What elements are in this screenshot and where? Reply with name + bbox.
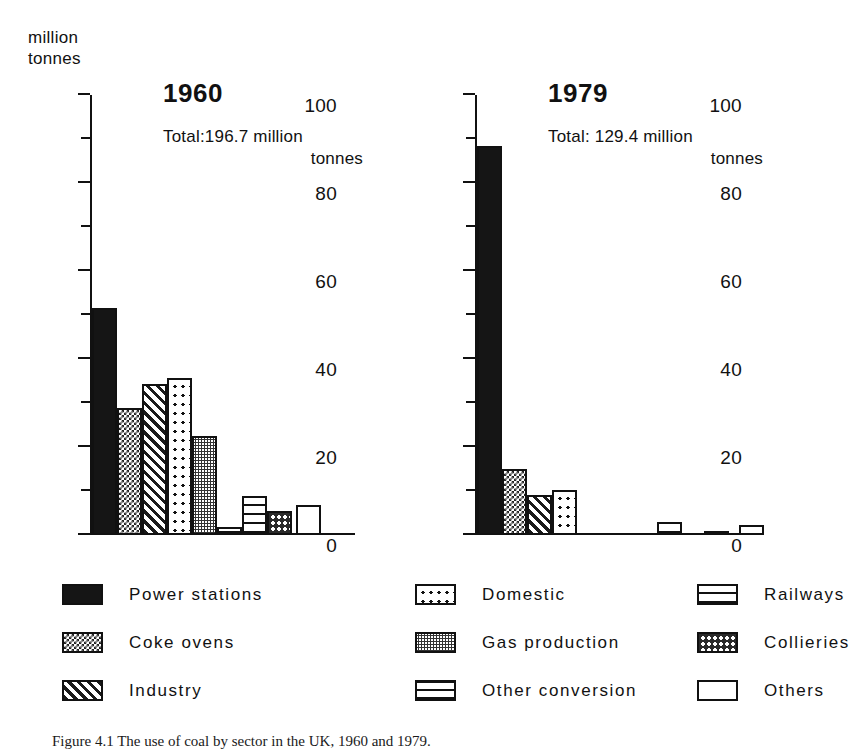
bar-power-stations xyxy=(92,308,117,535)
legend-label: Gas production xyxy=(482,633,620,653)
bar-other-conversion xyxy=(217,527,242,535)
y-tick-major xyxy=(78,357,90,359)
legend-swatch-power-stations xyxy=(62,584,103,605)
figure-caption: Figure 4.1 The use of coal by sector in … xyxy=(52,733,852,750)
y-tick-major xyxy=(463,445,475,447)
bar-domestic xyxy=(552,490,577,535)
legend-swatch-collieries xyxy=(697,632,738,653)
panel-1960: 1960 Total:196.7 million tonnes 02040608… xyxy=(0,0,430,560)
bar-coke-ovens xyxy=(502,469,527,535)
y-tick-minor xyxy=(466,313,475,315)
legend-label: Industry xyxy=(129,681,202,701)
y-tick-major xyxy=(78,181,90,183)
bar-industry xyxy=(142,384,167,535)
bar-power-stations xyxy=(477,146,502,535)
legend-item: Others xyxy=(697,680,825,701)
y-tick-major xyxy=(78,93,90,95)
bar-railways xyxy=(657,522,682,535)
y-tick-minor xyxy=(81,137,90,139)
legend-swatch-domestic xyxy=(415,584,456,605)
bar-others xyxy=(739,525,764,535)
y-tick-major xyxy=(463,357,475,359)
legend-item: Gas production xyxy=(415,632,620,653)
plot-area-1960: 020406080100 xyxy=(90,95,355,535)
legend-item: Power stations xyxy=(62,584,263,605)
bar-collieries xyxy=(267,511,292,535)
legend-item: Collieries xyxy=(697,632,850,653)
legend-label: Power stations xyxy=(129,585,263,605)
legend-label: Railways xyxy=(764,585,845,605)
bar-industry xyxy=(527,495,552,535)
y-tick-major xyxy=(463,269,475,271)
y-tick-minor xyxy=(81,225,90,227)
bar-railways xyxy=(242,496,267,535)
bar-coke-ovens xyxy=(117,408,142,535)
legend-swatch-coke-ovens xyxy=(62,632,103,653)
legend-label: Others xyxy=(764,681,825,701)
legend-swatch-others xyxy=(697,680,738,701)
y-tick-major xyxy=(78,445,90,447)
y-tick-major xyxy=(78,269,90,271)
bar-collieries xyxy=(704,531,729,535)
y-tick-minor xyxy=(81,401,90,403)
legend: Power stationsCoke ovensIndustryDomestic… xyxy=(0,580,861,710)
legend-swatch-industry xyxy=(62,680,103,701)
y-tick-minor xyxy=(466,225,475,227)
figure-coal-use: million tonnes 1960 Total:196.7 million … xyxy=(0,0,861,750)
legend-item: Industry xyxy=(62,680,202,701)
y-tick-major xyxy=(463,181,475,183)
y-tick-major xyxy=(463,93,475,95)
y-tick-minor xyxy=(81,489,90,491)
y-tick-major xyxy=(463,533,475,535)
legend-item: Other conversion xyxy=(415,680,637,701)
y-tick-minor xyxy=(466,489,475,491)
legend-item: Railways xyxy=(697,584,845,605)
legend-item: Domestic xyxy=(415,584,566,605)
panel-1979: 1979 Total: 129.4 million tonnes 0204060… xyxy=(430,0,861,560)
legend-label: Domestic xyxy=(482,585,566,605)
legend-swatch-other-conversion xyxy=(415,680,456,701)
y-tick-minor xyxy=(466,137,475,139)
bar-gas-production xyxy=(192,436,217,535)
legend-swatch-gas-production xyxy=(415,632,456,653)
bar-others xyxy=(296,505,321,535)
y-tick-major xyxy=(78,533,90,535)
legend-swatch-railways xyxy=(697,584,738,605)
bar-domestic xyxy=(167,378,192,535)
legend-item: Coke ovens xyxy=(62,632,235,653)
legend-label: Other conversion xyxy=(482,681,637,701)
legend-label: Collieries xyxy=(764,633,850,653)
y-tick-minor xyxy=(81,313,90,315)
plot-area-1979: 020406080100 xyxy=(475,95,760,535)
y-tick-minor xyxy=(466,401,475,403)
legend-label: Coke ovens xyxy=(129,633,235,653)
